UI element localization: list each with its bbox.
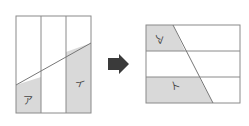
label-a-left: ア [23,95,33,106]
diagram-canvas: ア イ ア イ [0,0,249,126]
arrow-right-icon [108,54,129,74]
right-figure: ア イ [146,25,240,103]
left-figure: ア イ [16,16,91,113]
